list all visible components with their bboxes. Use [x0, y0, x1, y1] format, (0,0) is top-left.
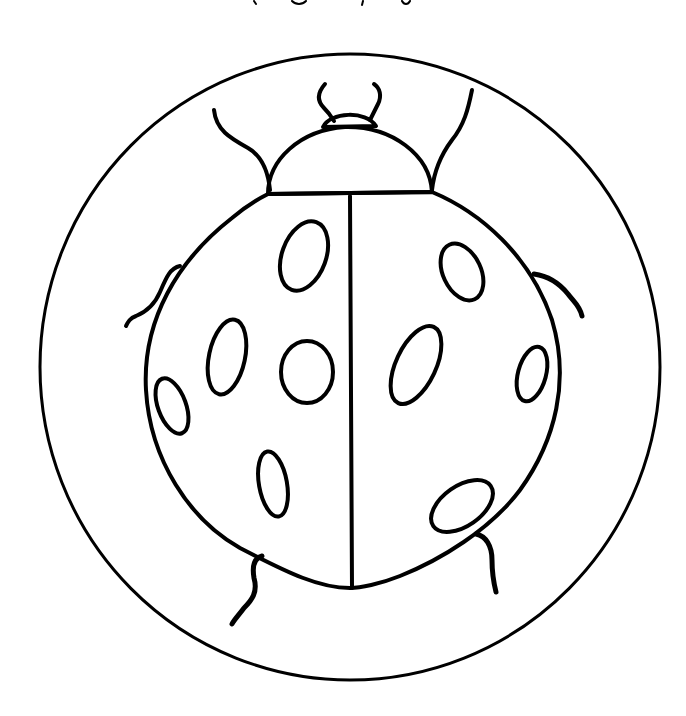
spot [281, 341, 333, 403]
rear-left-leg [232, 556, 262, 624]
spot [201, 316, 252, 398]
spot [511, 343, 553, 404]
front-right-leg [432, 90, 472, 190]
left-antenna [319, 84, 334, 121]
front-left-leg [214, 110, 270, 190]
cropped-title-marks [254, 1, 410, 5]
wing-divider [350, 196, 352, 588]
ladybug-drawing [0, 0, 686, 716]
spot [432, 237, 492, 307]
spot [253, 449, 292, 519]
right-antenna [370, 84, 380, 120]
spot [271, 215, 337, 298]
pronotum [268, 127, 432, 194]
spot [149, 374, 195, 438]
spot [380, 318, 452, 411]
spot [422, 470, 502, 543]
mid-left-leg [126, 266, 180, 326]
rear-right-leg [476, 534, 496, 592]
